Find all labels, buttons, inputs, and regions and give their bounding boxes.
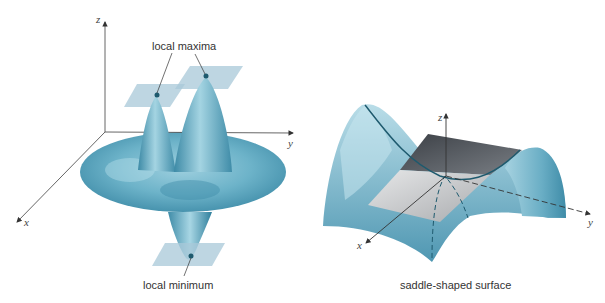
local-maxima-label: local maxima	[152, 40, 217, 52]
saddle-y-label: y	[587, 216, 593, 228]
y-axis-label: y	[287, 137, 293, 149]
figure-canvas: z x local minimum y local maxima	[0, 0, 605, 303]
saddle-caption: saddle-shaped surface	[400, 279, 511, 291]
saddle-x-label: x	[356, 239, 362, 251]
z-axis-label: z	[95, 13, 101, 25]
local-extrema-figure: z x local minimum y local maxima	[17, 13, 293, 291]
peak-2	[174, 77, 232, 172]
saddle-z-label: z	[437, 111, 443, 123]
x-axis-label: x	[23, 216, 29, 228]
maximum-point-2	[204, 74, 209, 79]
local-minimum-label: local minimum	[143, 279, 213, 291]
minimum-point	[189, 254, 194, 259]
saddle-figure: z x y saddle-shaped surface	[323, 104, 593, 291]
tangent-plane-minimum	[152, 243, 225, 266]
maximum-point-1	[155, 93, 160, 98]
